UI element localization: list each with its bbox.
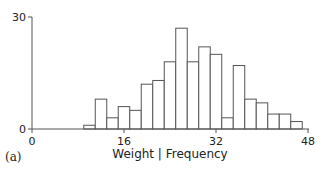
histogram-bar [256, 103, 268, 129]
histogram-bar [245, 99, 257, 129]
histogram-bar [84, 125, 96, 129]
x-tick-label: 0 [29, 135, 36, 148]
y-tick-label: 30 [12, 11, 26, 24]
histogram-bar [118, 107, 130, 129]
y-tick-label: 0 [19, 123, 26, 136]
histogram-bar [95, 99, 107, 129]
histogram-bar [233, 66, 245, 129]
histogram-bar [210, 54, 222, 129]
x-axis-title: Weight | Frequency [112, 147, 227, 161]
histogram-bar [130, 110, 142, 129]
histogram-bar [153, 80, 165, 129]
panel-label: (a) [5, 150, 22, 164]
histogram-bar [199, 47, 211, 129]
histogram-bar [107, 118, 119, 129]
histogram-bar [279, 114, 291, 129]
histogram-bar [176, 28, 188, 129]
x-tick-label: 48 [301, 135, 315, 148]
histogram-bar [222, 118, 234, 129]
histogram-bar [141, 84, 153, 129]
histogram-bar [164, 62, 176, 129]
histogram-bar [187, 62, 199, 129]
histogram-chart: 0300163248Weight | Frequency [0, 0, 324, 181]
histogram-bar [291, 122, 303, 129]
histogram-bar [268, 114, 280, 129]
